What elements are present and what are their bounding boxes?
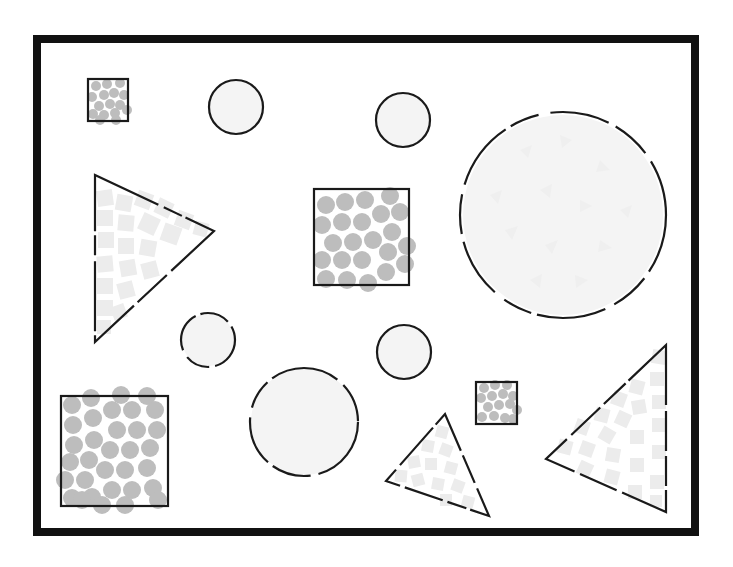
circle-large-right bbox=[460, 112, 666, 318]
square-bottom-left bbox=[56, 386, 168, 514]
triangle-bottom-right bbox=[546, 345, 667, 512]
square-small-top-left bbox=[87, 78, 132, 125]
circle-top-2 bbox=[376, 93, 430, 147]
circle-top-1 bbox=[209, 80, 263, 134]
circle-dashed-small bbox=[181, 313, 235, 367]
shape-diagram bbox=[0, 0, 733, 567]
square-small-bottom bbox=[476, 380, 522, 424]
circle-middle bbox=[377, 325, 431, 379]
triangle-bottom-center bbox=[386, 414, 489, 516]
circle-dashed-bottom bbox=[250, 368, 358, 476]
square-center bbox=[313, 187, 416, 292]
